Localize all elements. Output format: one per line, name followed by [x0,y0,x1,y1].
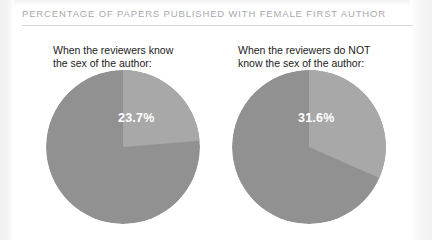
pie-svg [232,70,386,224]
pie-value-label: 31.6% [298,111,334,125]
chart-page: PERCENTAGE OF PAPERS PUBLISHED WITH FEMA… [0,0,432,240]
page-edge-left [0,0,14,240]
title-divider [22,25,413,26]
panel-caption: When the reviewers do NOT know the sex o… [238,44,370,70]
page-edge-right [410,0,432,240]
pie-chart-reviewers-do-not-know: 31.6% [232,70,386,224]
pie-value-label: 23.7% [118,111,154,125]
page-edge-top [0,0,432,6]
pie-highlight-slice [123,70,200,147]
pie-svg [46,70,200,224]
pie-chart-reviewers-know: 23.7% [46,70,200,224]
panel-reviewers-do-not-know: When the reviewers do NOT know the sex o… [238,44,370,70]
page-title: PERCENTAGE OF PAPERS PUBLISHED WITH FEMA… [22,8,386,19]
panel-caption: When the reviewers know the sex of the a… [53,44,173,70]
panel-reviewers-know: When the reviewers know the sex of the a… [53,44,173,70]
